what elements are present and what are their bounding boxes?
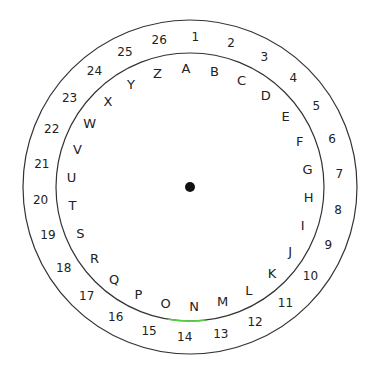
- wheel-number: 8: [334, 204, 342, 216]
- wheel-letter: J: [288, 245, 292, 258]
- wheel-number: 2: [227, 37, 235, 49]
- wheel-letter: P: [134, 288, 142, 301]
- wheel-number: 17: [79, 290, 94, 302]
- wheel-letter: M: [217, 295, 228, 308]
- wheel-letter: R: [90, 251, 99, 264]
- wheel-letter: X: [104, 94, 113, 107]
- wheel-letter: E: [281, 110, 289, 123]
- wheel-letter: O: [160, 297, 170, 310]
- wheel-number: 16: [108, 311, 123, 323]
- wheel-letter: Z: [153, 66, 162, 79]
- wheel-number: 25: [117, 46, 132, 58]
- wheel-letter: L: [245, 284, 252, 297]
- wheel-letter: B: [210, 64, 219, 77]
- wheel-letter: W: [83, 116, 96, 129]
- wheel-letter: U: [67, 170, 77, 183]
- wheel-letter: D: [261, 89, 271, 102]
- wheel-letter: A: [181, 62, 190, 75]
- wheel-letter: V: [73, 142, 82, 155]
- wheel-number: 18: [56, 262, 71, 274]
- wheel-number: 1: [191, 31, 199, 43]
- cipher-wheel: ABCDEFGHIJKLMNOPQRSTUVWXYZ12345678910111…: [0, 0, 381, 373]
- wheel-letter: S: [76, 227, 84, 240]
- wheel-number: 9: [324, 239, 332, 251]
- wheel-number: 14: [177, 331, 192, 343]
- wheel-number: 24: [87, 65, 102, 77]
- wheel-number: 4: [289, 72, 297, 84]
- wheel-number: 11: [278, 297, 293, 309]
- wheel-number: 7: [336, 168, 344, 180]
- wheel-number: 15: [141, 325, 156, 337]
- wheel-letter: N: [189, 299, 199, 312]
- wheel-number: 5: [313, 100, 321, 112]
- wheel-number: 3: [260, 51, 268, 63]
- wheel-circles: [0, 0, 381, 373]
- green-highlight-arc: [168, 319, 205, 321]
- wheel-letter: I: [301, 219, 305, 232]
- wheel-number: 23: [62, 92, 77, 104]
- wheel-letter: T: [68, 199, 76, 212]
- wheel-number: 20: [33, 194, 48, 206]
- wheel-letter: H: [304, 191, 314, 204]
- wheel-number: 19: [40, 229, 55, 241]
- wheel-letter: Y: [127, 77, 135, 90]
- wheel-letter: C: [237, 73, 246, 86]
- wheel-number: 6: [328, 133, 336, 145]
- wheel-number: 10: [303, 270, 318, 282]
- center-dot: [185, 182, 195, 192]
- wheel-letter: G: [303, 162, 313, 175]
- wheel-number: 22: [44, 123, 59, 135]
- wheel-letter: Q: [109, 272, 119, 285]
- wheel-number: 13: [213, 328, 228, 340]
- wheel-letter: K: [268, 267, 277, 280]
- wheel-number: 26: [152, 34, 167, 46]
- wheel-letter: F: [296, 134, 303, 147]
- wheel-number: 12: [247, 316, 262, 328]
- wheel-number: 21: [34, 158, 49, 170]
